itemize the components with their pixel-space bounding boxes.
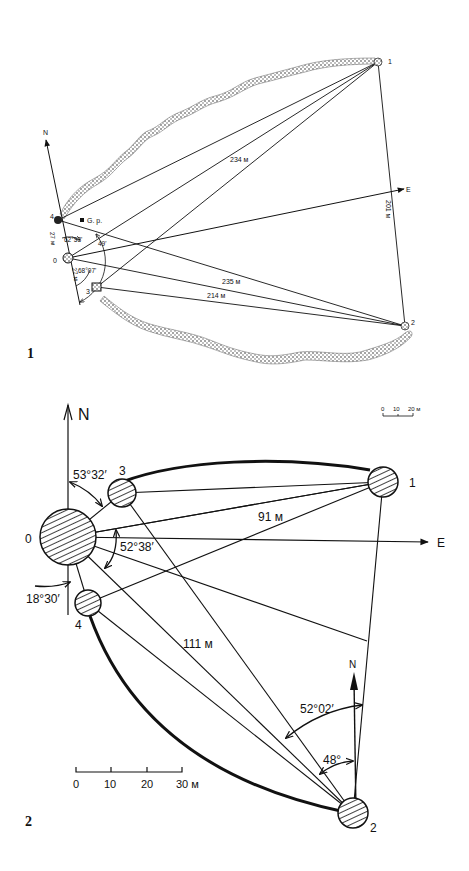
station-label: 1 — [388, 58, 392, 65]
scale-tick: 0 — [381, 406, 385, 412]
shoreline-upper — [60, 58, 377, 219]
station-2-4 — [75, 590, 101, 616]
figure-2: N E N — [25, 405, 445, 835]
scale-tick: 20 м — [408, 406, 420, 412]
diagram-canvas: N E 1 2 0 3 4 G. p. 234 — [0, 0, 469, 871]
angle-label: 49' — [98, 240, 106, 247]
east-label-2: E — [437, 536, 445, 550]
scale-tick: 30 м — [176, 778, 199, 790]
north-arrow-head-2 — [350, 672, 358, 690]
distance-label: 234 м — [230, 156, 249, 163]
station-label: 3 — [119, 464, 126, 478]
gp-label: G. p. — [87, 217, 102, 225]
north-label-2: N — [78, 406, 90, 423]
distance-label: 201 м — [385, 200, 392, 219]
scale-tick: 10 — [393, 406, 400, 412]
angle-label: 53°32′ — [73, 468, 107, 482]
angle-arc-18 — [35, 582, 70, 587]
figure-1: N E 1 2 0 3 4 G. p. 234 — [27, 58, 420, 416]
angle-label: 48° — [323, 753, 341, 767]
station-2-1 — [368, 467, 398, 497]
shoreline-lower — [100, 296, 412, 364]
angle-label: 52°38′ — [120, 540, 154, 554]
angle-arc-53 — [70, 482, 102, 506]
station-label: 2 — [370, 821, 377, 835]
north-label-1: N — [43, 129, 48, 136]
scale-tick: 20 — [141, 778, 153, 790]
angle-label: 62°53' — [64, 236, 82, 243]
figure-number-1: 1 — [27, 346, 34, 361]
station-label: 4 — [75, 618, 82, 632]
north-label-3: N — [349, 659, 356, 670]
station-label: 0 — [53, 257, 57, 264]
station-1-1 — [374, 58, 382, 66]
scale-tick: 0 — [73, 778, 79, 790]
angle-label: 52°02′ — [300, 702, 334, 716]
station-2-0 — [40, 509, 96, 565]
gp-marker — [80, 218, 84, 222]
scale-tick: 10 — [104, 778, 116, 790]
station-2-3 — [108, 479, 136, 507]
east-label-1: E — [406, 186, 411, 193]
station-label: 3 — [86, 288, 90, 295]
east-axis-1 — [68, 189, 404, 258]
scale-bar-1: 0 10 20 м — [381, 406, 420, 416]
distance-label: 27 м — [49, 231, 57, 246]
station-1-2 — [401, 322, 409, 330]
scale-bar-2: 0 10 20 30 м — [73, 767, 199, 790]
angle-label: 18°30′ — [26, 592, 60, 606]
angle-arc-52 — [105, 530, 116, 568]
station-label: 2 — [411, 319, 415, 326]
distance-label: 91 м — [258, 510, 283, 524]
distance-label: 111 м — [183, 637, 213, 651]
figure-number-2: 2 — [25, 814, 32, 829]
station-label: 4 — [50, 213, 54, 220]
distance-label: 235 м — [222, 278, 241, 285]
station-1-4 — [54, 216, 62, 224]
survey-lines-1 — [58, 62, 405, 326]
angle-label: 68°07' — [78, 267, 96, 274]
station-2-2 — [338, 798, 368, 828]
distance-label: 214 м — [207, 292, 226, 299]
station-1-0 — [63, 253, 73, 263]
station-label: 1 — [409, 476, 416, 490]
station-1-3 — [92, 283, 101, 291]
shoreline-north — [122, 461, 370, 482]
station-label: 0 — [25, 532, 32, 546]
